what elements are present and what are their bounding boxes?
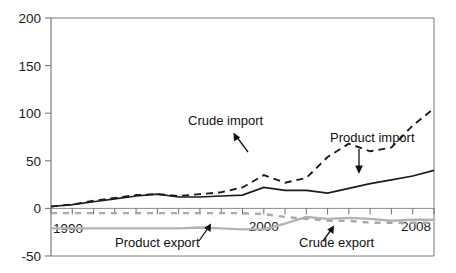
y-tick-label-neg50: -50 bbox=[21, 249, 41, 264]
y-tick-label-50: 50 bbox=[26, 154, 41, 169]
annotation-label-product-import: Product import bbox=[330, 130, 415, 145]
annotation-label-crude-import: Crude import bbox=[188, 113, 264, 128]
line-chart-svg: 200 150 100 50 0 -50 bbox=[0, 0, 456, 273]
annotation-label-product-export: Product export bbox=[115, 235, 200, 250]
y-tick-label-150: 150 bbox=[18, 59, 41, 74]
chart-figure: 200 150 100 50 0 -50 bbox=[0, 0, 456, 273]
y-tick-label-200: 200 bbox=[18, 11, 41, 26]
annotation-label-crude-export: Crude export bbox=[299, 235, 375, 250]
y-tick-label-100: 100 bbox=[18, 106, 41, 121]
y-tick-label-0: 0 bbox=[33, 201, 41, 216]
